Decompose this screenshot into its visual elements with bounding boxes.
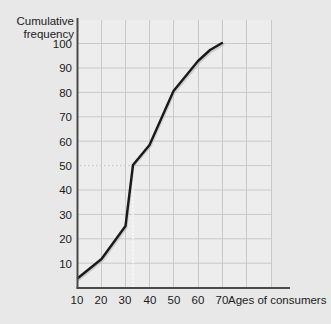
plot-area [0,0,331,324]
cumulative-frequency-chart: Cumulative frequency 100 90 80 70 60 50 … [0,0,331,324]
plot-background [77,20,272,288]
